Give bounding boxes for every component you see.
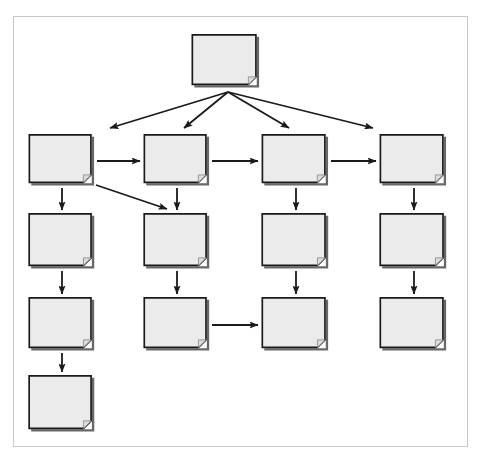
node-label (28, 375, 96, 433)
node-label (261, 134, 330, 187)
node-label (379, 297, 448, 352)
diagram-node[interactable] (261, 213, 330, 270)
node-label (191, 34, 261, 89)
diagram-node[interactable] (379, 297, 448, 352)
diagram-node[interactable] (191, 34, 261, 89)
diagram-node[interactable] (143, 134, 211, 187)
diagram-node[interactable] (261, 297, 330, 352)
node-label (379, 213, 448, 270)
diagram-canvas (0, 0, 482, 463)
node-label (143, 297, 211, 352)
node-label (28, 297, 96, 352)
diagram-node[interactable] (143, 213, 211, 270)
diagram-node[interactable] (261, 134, 330, 187)
diagram-node[interactable] (28, 375, 96, 433)
node-label (28, 134, 96, 187)
diagram-node[interactable] (28, 134, 96, 187)
node-label (143, 134, 211, 187)
diagram-node[interactable] (379, 213, 448, 270)
node-layer (0, 0, 482, 463)
diagram-node[interactable] (28, 213, 96, 270)
node-label (143, 213, 211, 270)
node-label (28, 213, 96, 270)
node-label (379, 134, 448, 187)
node-label (261, 297, 330, 352)
node-label (261, 213, 330, 270)
diagram-node[interactable] (143, 297, 211, 352)
diagram-node[interactable] (28, 297, 96, 352)
diagram-node[interactable] (379, 134, 448, 187)
